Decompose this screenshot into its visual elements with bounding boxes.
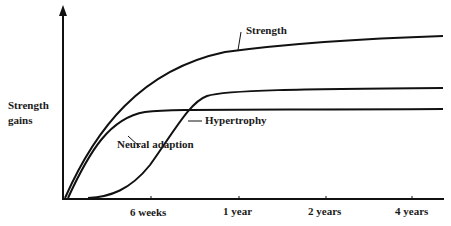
hypertrophy-label: Hypertrophy [205,114,267,126]
y-axis-label-line2: gains [8,113,49,128]
y-axis-label: Strength gains [8,98,49,128]
strength-label: Strength [246,24,287,36]
strength-leader [238,32,241,50]
x-tick-label-1-year: 1 year [223,205,252,217]
x-tick-label-4-years: 4 years [395,205,428,217]
chart-canvas [0,0,451,226]
x-tick-label-6-weeks: 6 weeks [130,206,166,218]
neural-adaption-label: Neural adaption [117,138,194,150]
y-axis-label-line1: Strength [8,98,49,113]
y-axis-arrow-icon [59,5,67,16]
x-tick-label-2-years: 2 years [308,205,341,217]
